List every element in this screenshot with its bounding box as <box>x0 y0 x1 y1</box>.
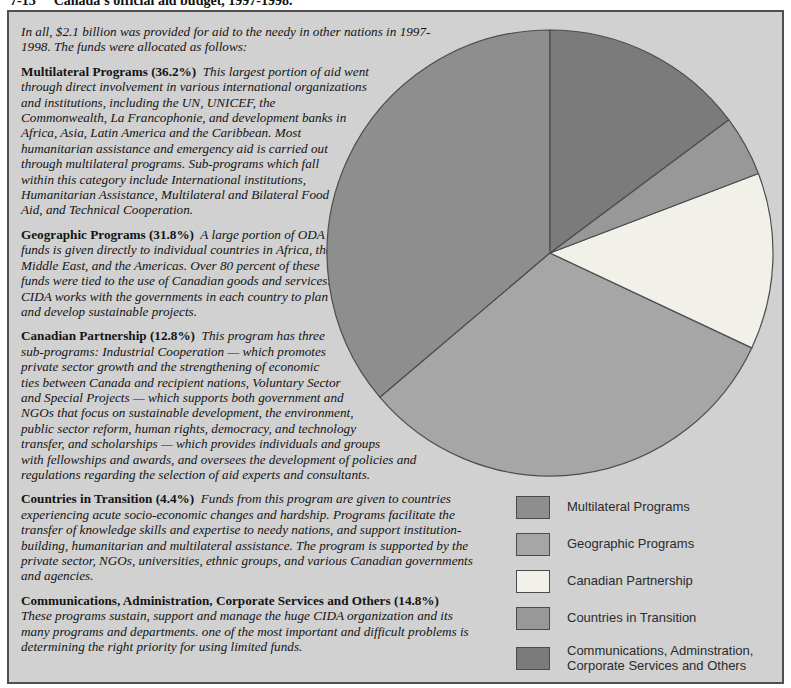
figure-number: 7-13 <box>10 0 36 8</box>
legend-item-4: Countries in Transition <box>516 607 766 630</box>
legend-swatch <box>516 570 550 593</box>
figure-caption: 7-13Canada's official aid budget, 1997-1… <box>10 0 292 9</box>
chart-panel: In all, $2.1 billion was provided for ai… <box>7 10 784 684</box>
program-heading: Multilateral Programs (36.2%) <box>21 64 196 79</box>
legend-item-3: Canadian Partnership <box>516 570 766 593</box>
program-heading: Canadian Partnership (12.8%) <box>21 328 195 343</box>
legend-swatch <box>516 607 550 630</box>
legend-swatch <box>516 647 550 670</box>
legend-label: Countries in Transition <box>567 611 696 626</box>
program-heading: Communications, Administration, Corporat… <box>21 593 439 608</box>
legend-label: Communications, Adminstration, Corporate… <box>567 644 753 673</box>
legend-label: Multilateral Programs <box>567 500 690 515</box>
legend-swatch <box>516 533 550 556</box>
legend: Multilateral ProgramsGeographic Programs… <box>516 496 766 687</box>
figure-caption-strip: 7-13Canada's official aid budget, 1997-1… <box>0 0 791 9</box>
legend-swatch <box>516 496 550 519</box>
program-paragraph-5: Communications, Administration, Corporat… <box>21 593 473 655</box>
program-paragraph-4: Countries in Transition (4.4%) Funds fro… <box>21 491 473 583</box>
legend-item-1: Multilateral Programs <box>516 496 766 519</box>
program-heading: Geographic Programs (31.8%) <box>21 227 194 242</box>
figure-title: Canada's official aid budget, 1997-1998. <box>54 0 293 8</box>
program-body: This largest portion of aid went through… <box>21 64 369 218</box>
legend-item-2: Geographic Programs <box>516 533 766 556</box>
program-heading: Countries in Transition (4.4%) <box>21 491 194 506</box>
pie-chart <box>319 25 781 485</box>
legend-label: Geographic Programs <box>567 537 694 552</box>
legend-label: Canadian Partnership <box>567 574 693 589</box>
legend-item-5: Communications, Adminstration, Corporate… <box>516 644 766 673</box>
